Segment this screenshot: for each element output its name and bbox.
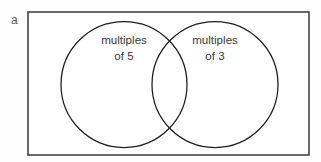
universal-set-rectangle (28, 12, 309, 155)
set-label-right-line2: of 3 (205, 49, 224, 62)
set-label-left-line1: multiples (101, 33, 147, 46)
set-label-left-line2: of 5 (114, 49, 133, 62)
set-label-right-line1: multiples (192, 33, 238, 46)
venn-diagram-figure: a multiples of 5 multiples of 3 (0, 0, 321, 162)
part-label-a: a (11, 13, 18, 27)
venn-diagram-canvas: a multiples of 5 multiples of 3 (0, 0, 321, 162)
